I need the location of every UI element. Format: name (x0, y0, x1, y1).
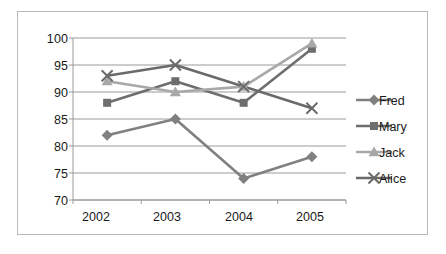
y-tick-label-80: 80 (24, 140, 68, 154)
line-chart-plot (18, 12, 427, 234)
y-tick-label-70: 70 (24, 194, 68, 208)
y-tick-label-90: 90 (24, 86, 68, 100)
legend-label-fred: Fred (379, 94, 405, 108)
x-tick-label-2005: 2005 (274, 210, 346, 224)
axis-lines (69, 38, 346, 204)
x-tick-label-2004: 2004 (203, 210, 275, 224)
legend-label-mary: Mary (379, 120, 407, 134)
x-tick-label-2002: 2002 (60, 210, 132, 224)
y-tick-label-85: 85 (24, 113, 68, 127)
y-tick-label-95: 95 (24, 59, 68, 73)
chart-frame: 100 95 90 85 80 75 70 2002 2003 2004 200… (17, 11, 428, 235)
x-tick-label-2003: 2003 (131, 210, 203, 224)
gridlines (73, 38, 346, 200)
y-tick-label-75: 75 (24, 167, 68, 181)
legend-label-jack: Jack (379, 146, 405, 160)
series-lines (102, 38, 318, 184)
legend-label-alice: Alice (379, 172, 406, 186)
y-tick-label-100: 100 (24, 32, 68, 46)
